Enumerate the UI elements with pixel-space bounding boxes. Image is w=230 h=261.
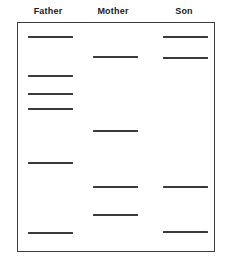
dna-band bbox=[163, 186, 208, 188]
dna-band bbox=[93, 130, 138, 132]
dna-band bbox=[93, 186, 138, 188]
dna-band bbox=[93, 56, 138, 58]
dna-band bbox=[28, 75, 73, 77]
lane-header-son: Son bbox=[154, 6, 214, 17]
dna-band bbox=[28, 93, 73, 95]
lane-header-father: Father bbox=[18, 6, 78, 17]
dna-band bbox=[163, 36, 208, 38]
gel-electrophoresis-figure: Father Mother Son bbox=[0, 0, 230, 261]
gel-box bbox=[17, 22, 215, 252]
dna-band bbox=[163, 57, 208, 59]
dna-band bbox=[28, 108, 73, 110]
dna-band bbox=[28, 232, 73, 234]
dna-band bbox=[163, 231, 208, 233]
lane-header-mother: Mother bbox=[83, 6, 143, 17]
dna-band bbox=[28, 162, 73, 164]
dna-band bbox=[28, 36, 73, 38]
dna-band bbox=[93, 214, 138, 216]
